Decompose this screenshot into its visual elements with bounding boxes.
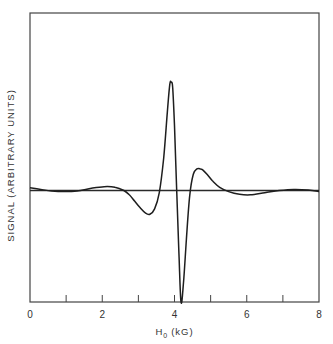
x-axis-label: H0(kG) [155, 326, 193, 339]
x-tick-label: 8 [316, 309, 322, 320]
x-tick-label: 2 [99, 309, 105, 320]
signal-curve [30, 81, 319, 303]
x-tick-label: 6 [244, 309, 250, 320]
plot-border [30, 13, 319, 302]
x-axis-label-subscript: 0 [163, 332, 168, 339]
x-tick-labels: 02468 [27, 309, 322, 320]
plot-frame [30, 13, 319, 302]
x-axis-label-symbol: H [155, 326, 163, 337]
x-axis-label-unit: (kG) [171, 326, 193, 337]
x-tick-label: 0 [27, 309, 33, 320]
chart: 02468 H0(kG) SIGNAL (ARBITRARY UNITS) [0, 0, 333, 344]
x-tick-label: 4 [172, 309, 178, 320]
y-axis-label: SIGNAL (ARBITRARY UNITS) [5, 89, 16, 242]
x-ticks [66, 295, 283, 302]
